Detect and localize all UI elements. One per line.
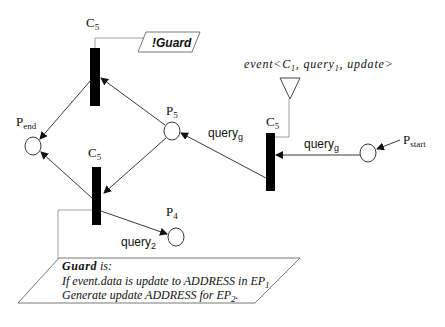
guard-box: Guard is: If event.data is update to ADD… bbox=[18, 258, 300, 304]
transition-right-bar bbox=[266, 133, 275, 191]
place-p-end: Pend bbox=[16, 114, 41, 155]
arc-top-to-pend bbox=[40, 80, 91, 139]
arc-p5-to-bottom bbox=[104, 138, 166, 193]
petri-net-diagram: C5 !Guard Pend P5 C5 P4 C5 event<C1, que… bbox=[0, 0, 445, 327]
place-p5-label: P5 bbox=[166, 103, 178, 120]
guard-connector bbox=[58, 210, 92, 259]
place-p4-label: P4 bbox=[166, 204, 178, 221]
arc-label-p4: query2 bbox=[121, 235, 156, 251]
arc-pstart-in bbox=[377, 140, 400, 149]
guard-not-connector bbox=[95, 38, 147, 48]
arc-bottom-to-pend bbox=[41, 152, 92, 198]
event-triangle-icon bbox=[280, 78, 300, 99]
arc-label-start: queryg bbox=[304, 137, 339, 153]
place-p-start-label: Pstart bbox=[403, 132, 426, 149]
transition-top-label: C5 bbox=[86, 15, 100, 32]
event-label: event<C1, query1, update> bbox=[244, 57, 394, 73]
transition-top-c5: C5 bbox=[86, 15, 100, 106]
transition-top-bar bbox=[90, 48, 100, 106]
guard-not-label: !Guard bbox=[152, 36, 192, 50]
transition-bottom-c5: C5 bbox=[88, 145, 102, 225]
guard-box-line2: Generate update ADDRESS for EP2. bbox=[62, 288, 239, 304]
guard-box-title: Guard is: bbox=[62, 259, 112, 273]
arc-label-p5: queryg bbox=[208, 126, 243, 142]
arc-p5-to-top bbox=[101, 78, 165, 125]
transition-bottom-label: C5 bbox=[88, 145, 102, 162]
place-p4: P4 bbox=[166, 204, 184, 246]
place-p5: P5 bbox=[164, 103, 180, 140]
guard-not-box: !Guard bbox=[138, 32, 200, 52]
transition-right-c5: C5 bbox=[266, 114, 280, 191]
place-p-end-label: Pend bbox=[16, 114, 37, 131]
place-p-start: Pstart bbox=[360, 132, 426, 162]
event-connector bbox=[275, 99, 289, 137]
transition-bottom-bar bbox=[92, 167, 101, 225]
transition-right-label: C5 bbox=[266, 114, 280, 131]
arc-bottom-to-p4 bbox=[101, 211, 167, 234]
